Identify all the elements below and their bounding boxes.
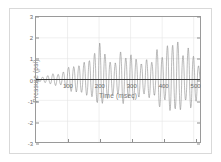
y-tick-mark [36,101,39,102]
y-tick-mark [197,59,200,60]
x-tick-label: 500 [191,83,201,89]
y-tick-label: 3 [30,14,33,20]
y-tick-label: -1 [28,99,33,105]
x-tick-label: 100 [63,83,73,89]
y-tick-mark [36,59,39,60]
y-tick-mark [36,122,39,123]
zero-axis-line [36,17,200,142]
x-tick-label: 400 [159,83,169,89]
y-tick-mark [197,101,200,102]
x-tick-mark [100,139,101,142]
x-axis-label: Time (msec) [99,92,137,99]
x-tick-mark [196,139,197,142]
y-tick-label: -3 [28,141,33,147]
y-tick-mark [36,80,39,81]
y-tick-label: 1 [30,56,33,62]
x-tick-mark [164,139,165,142]
y-tick-mark [36,144,39,145]
y-tick-mark [197,38,200,39]
y-tick-mark [197,122,200,123]
x-tick-label: 300 [127,83,137,89]
y-tick-mark [36,17,39,18]
y-tick-mark [36,38,39,39]
plot-area: -3-2-10123 100200300400500 Time (msec) [35,16,201,143]
y-tick-mark [197,144,200,145]
chart-figure: Pressure (psi) -3-2-10123 10020030040050… [0,0,221,162]
x-tick-mark [132,139,133,142]
x-tick-mark [68,139,69,142]
y-tick-mark [197,80,200,81]
y-tick-label: 2 [30,35,33,41]
x-tick-label: 200 [95,83,105,89]
y-tick-mark [197,17,200,18]
y-tick-label: 0 [30,78,33,84]
y-tick-label: -2 [28,120,33,126]
